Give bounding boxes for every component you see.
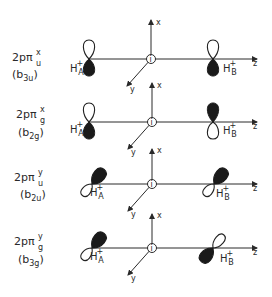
- symmetry-label: (b2g): [18, 126, 44, 141]
- orbital-label-sup: y: [38, 168, 43, 177]
- row-b3u: 2pπ x u (b3u) i x y z H+A H+B: [12, 18, 257, 94]
- orbital-label-sup: x: [36, 48, 41, 57]
- atom-b-label: H+B: [216, 184, 230, 202]
- atom-a-label: H+A: [70, 120, 84, 138]
- y-axis: [128, 122, 152, 149]
- orbital-label-sub: u: [38, 179, 43, 188]
- orbital-label-sup: x: [40, 105, 45, 114]
- center-symbol: i: [150, 55, 152, 64]
- atom-a-label: H+A: [70, 59, 84, 77]
- x-axis-label: x: [156, 18, 161, 27]
- symmetry-label: (b2u): [20, 188, 46, 203]
- atom-b-label: H+B: [220, 249, 234, 267]
- orbital-diagram: 2pπ x u (b3u) i x y z H+A H+B 2pπ x g: [0, 0, 272, 297]
- center-symbol: i: [151, 118, 153, 127]
- orbital-label: 2pπ: [14, 171, 35, 184]
- row-label: 2pπ x g (b2g): [16, 105, 45, 141]
- center-symbol: i: [151, 244, 153, 253]
- orbital-label-sub: g: [40, 116, 45, 125]
- row-label: 2pπ y g (b3g): [14, 232, 44, 268]
- z-axis-label: z: [253, 59, 257, 68]
- row-b2g: 2pπ x g (b2g) i x y z H+A H+B: [16, 81, 257, 157]
- orbital-atom-b: [207, 40, 218, 76]
- y-axis-label: y: [130, 85, 135, 94]
- row-label: 2pπ y u (b2u): [14, 168, 46, 203]
- x-axis-label: x: [157, 146, 162, 155]
- orbital-atom-b: [207, 103, 218, 139]
- orbital-label: 2pπ: [12, 51, 33, 64]
- atom-b-label: H+B: [223, 121, 237, 139]
- orbital-atom-a: [83, 103, 94, 139]
- y-axis-label: y: [131, 274, 136, 283]
- x-axis-label: x: [157, 81, 162, 90]
- y-axis: [127, 59, 151, 86]
- orbital-label-sub: g: [38, 243, 43, 252]
- y-axis: [128, 184, 152, 211]
- y-axis-label: y: [131, 210, 136, 219]
- center-symbol: i: [151, 180, 153, 189]
- orbital-label-sub: u: [36, 59, 41, 68]
- orbital-atom-a: [83, 40, 94, 76]
- atom-b-label: H+B: [223, 59, 237, 77]
- z-axis-label: z: [253, 184, 257, 193]
- orbital-label: 2pπ: [16, 108, 37, 121]
- z-axis-label: z: [253, 122, 257, 131]
- orbital-label: 2pπ: [14, 235, 35, 248]
- y-axis-label: y: [131, 148, 136, 157]
- x-axis-label: x: [157, 211, 162, 220]
- symmetry-label: (b3u): [12, 68, 38, 83]
- y-axis: [128, 248, 152, 275]
- symmetry-label: (b3g): [18, 253, 44, 268]
- z-axis-label: z: [253, 248, 257, 257]
- row-label: 2pπ x u (b3u): [12, 48, 41, 83]
- orbital-label-sup: y: [38, 232, 43, 241]
- row-b3g: 2pπ y g (b3g) i x y z H+A H+B: [14, 211, 257, 283]
